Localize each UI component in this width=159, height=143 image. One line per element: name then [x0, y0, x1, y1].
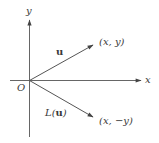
L-u-prefix: L( — [45, 107, 56, 118]
origin-label: O — [17, 83, 25, 93]
vector-u-label: u — [56, 47, 63, 57]
L-u-suffix: ) — [63, 107, 67, 118]
y-axis-label: y — [26, 6, 32, 16]
point-x-y-label: (x, y) — [99, 37, 124, 47]
x-axis-label: x — [145, 75, 151, 85]
diagram-canvas — [0, 0, 159, 143]
reflection-diagram: y x O u (x, y) L(u) (x, −y) — [0, 0, 159, 143]
vector-L-u-label: L(u) — [45, 108, 67, 118]
point-x-neg-y-label: (x, −y) — [99, 116, 133, 126]
L-u-bold-u: u — [56, 107, 63, 118]
